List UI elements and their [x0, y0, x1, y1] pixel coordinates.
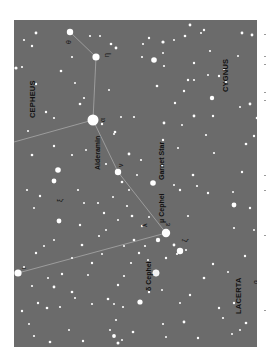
edge-tick — [264, 100, 266, 101]
greek-label-nu: ν — [117, 164, 124, 168]
star-label-delta-cephei: δ Cephei — [145, 261, 152, 291]
constellation-label-cygnus: CYGNUS — [222, 59, 230, 92]
edge-tick — [264, 34, 266, 35]
greek-label-beta: β — [253, 280, 257, 284]
greek-label-epsilon: ε — [164, 223, 171, 226]
greek-label-iota: ι — [20, 267, 27, 269]
edge-tick — [264, 92, 266, 93]
edge-tick — [264, 56, 266, 57]
edge-tick — [264, 175, 266, 176]
greek-label-theta: θ — [65, 40, 72, 44]
star-map[interactable]: CEPHEUS CYGNUS LACERTA Alderamin Garnet … — [14, 20, 257, 347]
constellation-label-cepheus: CEPHEUS — [29, 80, 37, 118]
greek-label-lambda: λ — [141, 224, 148, 228]
star-label-garnet-star: Garnet Star — [158, 142, 165, 180]
edge-tick — [264, 310, 266, 311]
greek-label-alpha: α — [99, 118, 106, 122]
greek-label-xi: ξ — [56, 199, 63, 202]
greek-label-eta: η — [103, 53, 110, 57]
star-label-mu-cephei: μ Cephei — [158, 193, 165, 223]
star-label-alderamin: Alderamin — [94, 136, 101, 170]
edge-tick — [264, 64, 266, 65]
edge-tick — [264, 235, 266, 236]
edge-tick — [264, 190, 266, 191]
greek-label-zeta: ζ — [181, 239, 188, 242]
delta-cephei-star — [153, 270, 159, 276]
constellation-lines — [14, 32, 166, 273]
constellation-label-lacerta: LACERTA — [235, 277, 243, 314]
